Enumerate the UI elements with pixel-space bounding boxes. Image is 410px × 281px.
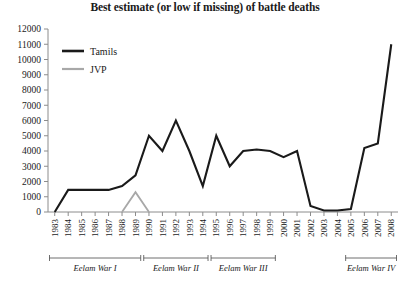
- x-tick-label: 2008: [386, 219, 396, 238]
- x-tick-label: 1999: [265, 219, 275, 238]
- annotation-bracket-label: Eelam War III: [218, 263, 269, 273]
- x-tick-label: 2006: [360, 219, 370, 238]
- annotation-bracket-label: Eelam War I: [73, 263, 118, 273]
- y-tick-label: 3000: [22, 162, 41, 172]
- x-tick-label: 2001: [292, 219, 302, 237]
- y-tick-label: 10000: [17, 55, 41, 65]
- annotation-bracket-label: Eelam War IV: [346, 263, 397, 273]
- x-tick-label: 1989: [131, 219, 141, 238]
- y-tick-label: 11000: [18, 40, 42, 50]
- x-tick-label: 1991: [158, 219, 168, 237]
- x-tick-label: 1984: [63, 219, 73, 238]
- y-axis: 0100020003000400050006000700080009000100…: [17, 24, 48, 217]
- annotation-bracket-label: Eelam War II: [152, 263, 200, 273]
- legend-label-jvp: JVP: [90, 64, 107, 75]
- x-tick-label: 1985: [77, 219, 87, 238]
- chart-container: Best estimate (or low if missing) of bat…: [0, 0, 410, 281]
- annotation-bracket-group: Eelam War IEelam War IIEelam War IIIEela…: [50, 255, 398, 273]
- x-tick-label: 1997: [238, 219, 248, 238]
- x-axis: 1983198419851986198719881989199019911992…: [48, 212, 398, 237]
- x-tick-label: 2003: [319, 219, 329, 238]
- y-tick-label: 5000: [22, 131, 41, 141]
- annotation-bracket: [50, 255, 141, 261]
- y-tick-label: 0: [36, 207, 41, 217]
- x-tick-label: 1990: [144, 219, 154, 238]
- x-tick-label: 1983: [50, 219, 60, 238]
- annotation-bracket: [211, 255, 275, 261]
- x-tick-group: 1983198419851986198719881989199019911992…: [50, 212, 397, 237]
- x-tick-label: 1995: [211, 219, 221, 238]
- y-tick-label: 9000: [22, 70, 41, 80]
- x-tick-label: 2007: [373, 219, 383, 238]
- y-tick-group: 0100020003000400050006000700080009000100…: [17, 24, 48, 217]
- y-tick-label: 12000: [17, 24, 41, 34]
- annotation-bracket: [144, 255, 208, 261]
- x-tick-label: 1998: [252, 219, 262, 238]
- x-tick-label: 1993: [185, 219, 195, 238]
- x-tick-label: 2005: [346, 219, 356, 238]
- chart-plot-area: 0100020003000400050006000700080009000100…: [0, 0, 410, 281]
- x-tick-label: 1987: [104, 219, 114, 238]
- y-tick-label: 6000: [22, 116, 41, 126]
- annotation-bracket: [346, 255, 397, 261]
- x-tick-label: 1996: [225, 219, 235, 238]
- legend-label-tamils: Tamils: [90, 46, 117, 57]
- y-tick-label: 8000: [22, 85, 41, 95]
- x-tick-label: 2002: [306, 219, 316, 237]
- series-line-jvp: [122, 192, 149, 212]
- y-tick-label: 7000: [22, 101, 41, 111]
- y-tick-label: 4000: [22, 146, 41, 156]
- x-tick-label: 2004: [333, 219, 343, 238]
- x-tick-label: 1994: [198, 219, 208, 238]
- legend: Tamils JVP: [62, 46, 117, 75]
- y-tick-label: 2000: [22, 177, 41, 187]
- x-tick-label: 1986: [90, 219, 100, 238]
- x-tick-label: 1992: [171, 219, 181, 237]
- x-tick-label: 2000: [279, 219, 289, 238]
- x-tick-label: 1988: [117, 219, 127, 238]
- y-tick-label: 1000: [22, 192, 41, 202]
